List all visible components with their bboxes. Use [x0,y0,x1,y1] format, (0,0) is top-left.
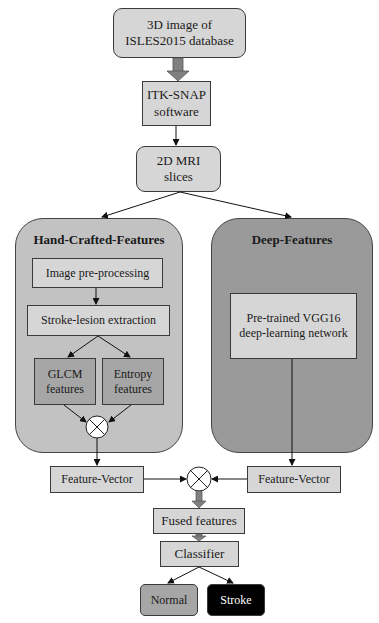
feature-fusion-icon [187,467,211,491]
glcm-line2: features [46,382,84,397]
mri-slices-node: 2D MRI slices [136,146,221,192]
vgg-line2: deep-learning network [239,326,347,341]
deep-features-title: Deep-Features [212,232,372,248]
entropy-line1: Entropy [114,367,153,382]
source-node: 3D image of ISLES2015 database [113,8,246,58]
glcm-line1: GLCM [48,367,83,382]
preprocessing-node: Image pre-processing [32,258,163,288]
fused-features-node: Fused features [153,508,245,534]
entropy-features-node: Entropy features [102,358,164,405]
normal-output: Normal [140,584,198,616]
glcm-features-node: GLCM features [34,358,96,405]
mri-line1: 2D MRI [157,153,201,169]
lesion-extraction-node: Stroke-lesion extraction [27,305,170,336]
itk-snap-node: ITK-SNAP software [142,81,211,126]
source-line1: 3D image of [147,17,212,33]
itk-line2: software [154,104,199,120]
thick-arrow-fused-to-classifier [192,534,206,541]
feature-vector-right: Feature-Vector [247,466,341,493]
entropy-line2: features [114,382,152,397]
feature-vector-left: Feature-Vector [50,466,144,493]
thick-arrow-source-to-itk [167,58,189,81]
itk-line1: ITK-SNAP [147,87,206,103]
classifier-node: Classifier [160,541,239,567]
vgg-line1: Pre-trained VGG16 [246,311,340,326]
hand-crafted-features-title: Hand-Crafted-Features [16,232,182,248]
mri-line2: slices [164,169,193,185]
source-line2: ISLES2015 database [125,33,234,49]
vgg16-node: Pre-trained VGG16 deep-learning network [230,293,357,359]
thick-arrow-fusion-to-fused [192,491,206,508]
stroke-output: Stroke [207,584,265,616]
